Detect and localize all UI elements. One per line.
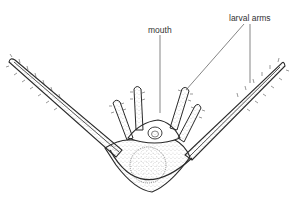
larva-illustration <box>0 0 292 200</box>
larval-arms-label: larval arms <box>229 14 271 23</box>
larval-arms-leader-line-1 <box>186 24 244 90</box>
stomach <box>130 147 166 183</box>
pluteus-larva-diagram: mouth larval arms <box>0 0 292 200</box>
left-postoral-arm <box>6 54 122 157</box>
larval-body <box>105 140 192 192</box>
postoral-arm-left-inner <box>130 87 145 131</box>
anterolateral-arm-left-outer <box>109 100 133 140</box>
mouth-label: mouth <box>148 26 172 35</box>
